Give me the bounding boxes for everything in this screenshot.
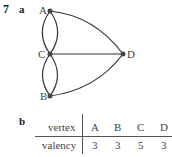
vertex-d-dot <box>121 52 126 57</box>
vertex-label-c: C <box>38 49 45 60</box>
valency-c: 5 <box>138 140 144 151</box>
edge-a-d <box>50 11 123 54</box>
vertex-a-dot <box>48 9 53 14</box>
part-b-label: b <box>19 116 25 127</box>
vertex-label-d: D <box>127 49 135 60</box>
table-horizontal-rule <box>35 136 172 137</box>
row-header-valency: valency <box>42 140 76 151</box>
edge-c-b-right <box>50 54 58 96</box>
table-vertical-rule <box>82 114 83 154</box>
edge-b-d <box>50 54 123 96</box>
column-header-a: A <box>91 122 99 133</box>
column-header-c: C <box>137 122 144 133</box>
vertex-b-dot <box>48 94 53 99</box>
vertex-label-a: A <box>39 5 47 16</box>
valency-a: 3 <box>92 140 98 151</box>
vertex-c-dot <box>48 52 53 57</box>
vertex-label-b: B <box>40 91 47 102</box>
graph-diagram <box>0 0 172 110</box>
valency-b: 3 <box>115 140 121 151</box>
column-header-d: D <box>160 122 168 133</box>
edge-a-c-right <box>50 11 58 54</box>
column-header-b: B <box>114 122 121 133</box>
valency-d: 3 <box>161 140 167 151</box>
row-header-vertex: vertex <box>48 122 75 133</box>
